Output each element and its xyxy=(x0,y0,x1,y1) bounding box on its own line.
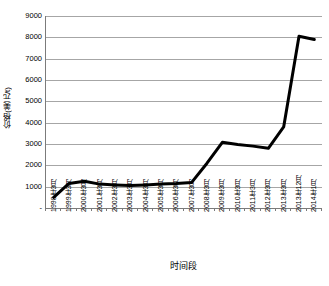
x-axis-tick-label: 2008年3月 xyxy=(203,179,210,212)
x-axis-tick-label: 2014年1月 xyxy=(310,179,317,212)
price-line-chart: 价格(美元/t) -100020003000400050006000700080… xyxy=(0,0,329,286)
y-axis-tick-label: - xyxy=(40,204,43,212)
x-axis-tick-label: 2003年3月 xyxy=(126,179,133,212)
x-axis-tick-mark xyxy=(306,208,307,211)
x-axis-tick-mark xyxy=(321,208,322,211)
x-axis-title: 时间段 xyxy=(45,262,322,271)
x-axis-tick-label: 2001年3月 xyxy=(95,179,102,212)
y-axis-tick-label: 3000 xyxy=(25,140,42,148)
y-axis-tick-label: 2000 xyxy=(25,162,42,170)
y-axis-tick-label: 6000 xyxy=(25,76,42,84)
y-axis-tick-label: 8000 xyxy=(25,34,42,42)
x-axis-tick-label: 2002年3月 xyxy=(111,179,118,212)
x-axis-tick-label: 2005年3月 xyxy=(157,179,164,212)
y-axis-tick-label: 7000 xyxy=(25,55,42,63)
x-axis-tick-mark xyxy=(275,208,276,211)
x-axis-tick-mark xyxy=(229,208,230,211)
y-axis-tick-labels: -100020003000400050006000700080009000 xyxy=(14,0,44,215)
x-axis-tick-mark xyxy=(214,208,215,211)
x-axis-tick-mark xyxy=(152,208,153,211)
y-axis-tick-label: 9000 xyxy=(25,12,42,20)
y-axis-title-label: 价格(美元/t) xyxy=(4,87,12,129)
x-axis-tick-mark xyxy=(91,208,92,211)
y-axis-tick-label: 5000 xyxy=(25,98,42,106)
x-axis-tick-mark xyxy=(122,208,123,211)
x-axis-tick-label: 1999年3月 xyxy=(65,179,72,212)
x-axis-tick-mark xyxy=(76,208,77,211)
x-axis-tick-mark xyxy=(137,208,138,211)
x-axis-tick-label: 2007年3月 xyxy=(187,179,194,212)
x-axis-tick-mark xyxy=(198,208,199,211)
x-axis-tick-mark xyxy=(106,208,107,211)
x-axis-tick-label: 2013年3月 xyxy=(279,179,286,212)
x-axis-tick-label: 2000年3月 xyxy=(80,179,87,212)
x-axis-tick-label: 2013年12月 xyxy=(295,175,302,212)
x-axis-tick-label: 2004年3月 xyxy=(141,179,148,212)
x-axis-tick-label: 2010年3月 xyxy=(233,179,240,212)
x-axis-tick-mark xyxy=(183,208,184,211)
x-axis-tick-label: 2006年3月 xyxy=(172,179,179,212)
x-axis-tick-mark xyxy=(260,208,261,211)
x-axis-tick-mark xyxy=(168,208,169,211)
x-axis-tick-labels: 1998年3月1999年3月2000年3月2001年3月2002年3月2003年… xyxy=(45,212,322,260)
x-axis-tick-label: 2009年3月 xyxy=(218,179,225,212)
series-polyline xyxy=(54,36,315,197)
x-axis-tick-mark xyxy=(45,208,46,211)
x-axis-tick-label: 2011年3月 xyxy=(249,179,256,212)
y-axis-tick-label: 1000 xyxy=(25,183,42,191)
x-axis-tick-label: 1998年3月 xyxy=(49,179,56,212)
x-axis-tick-label: 2012年3月 xyxy=(264,179,271,212)
y-axis-tick-label: 4000 xyxy=(25,119,42,127)
x-axis-tick-mark xyxy=(244,208,245,211)
x-axis-tick-mark xyxy=(60,208,61,211)
x-axis-tick-mark xyxy=(290,208,291,211)
